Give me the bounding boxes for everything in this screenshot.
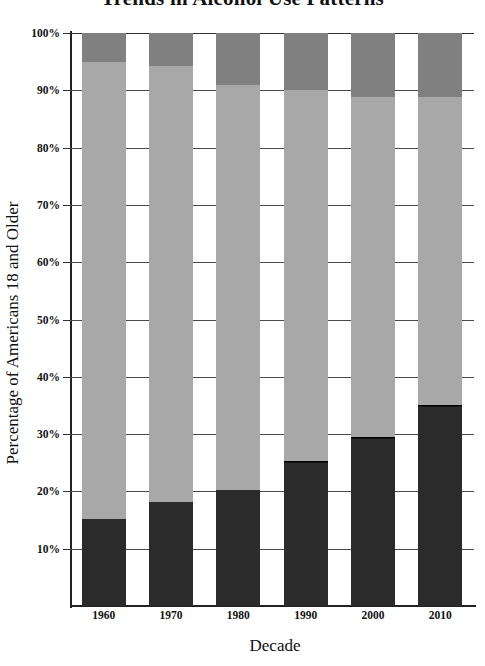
y-tick-mark: [63, 491, 70, 492]
y-tick-label: 100%: [31, 27, 60, 39]
x-tick-label-1990: 1990: [274, 609, 338, 621]
bar-segment: [82, 62, 126, 520]
bar-segment: [351, 437, 395, 477]
gridline: [70, 205, 474, 206]
y-tick-mark: [63, 377, 70, 378]
bar-segment: [284, 461, 328, 477]
y-tick-label: 60%: [37, 256, 60, 268]
bar-2000[interactable]: [351, 33, 395, 606]
gridline: [70, 434, 474, 435]
chart-title: Trends in Alcohol Use Patterns: [0, 0, 485, 8]
y-tick-mark: [63, 33, 70, 34]
bar-segment: [149, 33, 193, 66]
gridline: [70, 33, 474, 34]
gridline: [70, 320, 474, 321]
bar-segment: [149, 66, 193, 502]
x-tick-label-1960: 1960: [72, 609, 136, 621]
bar-segment: [418, 33, 462, 97]
bar-segment: [351, 477, 395, 606]
y-tick-mark: [63, 205, 70, 206]
bar-segment: [216, 490, 260, 606]
bar-segment: [216, 33, 260, 85]
y-tick-label: 50%: [37, 314, 60, 326]
y-tick-mark: [63, 148, 70, 149]
bar-segment: [149, 502, 193, 606]
stacked-bar-chart: Trends in Alcohol Use Patterns Percentag…: [0, 0, 485, 666]
bar-segment: [351, 33, 395, 97]
gridline: [70, 148, 474, 149]
gridline: [70, 262, 474, 263]
y-tick-label: 40%: [37, 371, 60, 383]
y-tick-mark: [63, 434, 70, 435]
bar-1980[interactable]: [216, 33, 260, 606]
x-axis-title: Decade: [70, 636, 480, 656]
bar-1990[interactable]: [284, 33, 328, 606]
bar-1960[interactable]: [82, 33, 126, 606]
y-tick-mark: [63, 262, 70, 263]
bar-segment: [216, 85, 260, 490]
bar-segment: [418, 97, 462, 406]
gridline: [70, 377, 474, 378]
gridline: [70, 549, 474, 550]
y-tick-label: 70%: [37, 199, 60, 211]
bar-segment: [351, 97, 395, 437]
y-tick-label: 30%: [37, 428, 60, 440]
bar-segment: [418, 405, 462, 449]
x-tick-label-2000: 2000: [341, 609, 405, 621]
bar-segment: [82, 33, 126, 62]
y-tick-label: 10%: [37, 543, 60, 555]
gridline: [70, 90, 474, 91]
bar-segment: [284, 90, 328, 461]
bar-segment: [284, 477, 328, 606]
y-axis-title: Percentage of Americans 18 and Older: [0, 0, 26, 666]
x-tick-label-2010: 2010: [408, 609, 472, 621]
bar-segment: [284, 33, 328, 90]
bar-segment: [82, 519, 126, 606]
gridline: [70, 491, 474, 492]
bar-1970[interactable]: [149, 33, 193, 606]
bar-2010[interactable]: [418, 33, 462, 606]
y-tick-mark: [63, 549, 70, 550]
y-tick-mark: [63, 90, 70, 91]
bar-segment: [418, 449, 462, 606]
y-tick-mark: [63, 320, 70, 321]
y-tick-label: 90%: [37, 84, 60, 96]
x-tick-label-1970: 1970: [139, 609, 203, 621]
y-tick-label: 20%: [37, 485, 60, 497]
x-tick-label-1980: 1980: [206, 609, 270, 621]
plot-area: 10%20%30%40%50%60%70%80%90%100%: [70, 33, 474, 606]
y-tick-label: 80%: [37, 142, 60, 154]
